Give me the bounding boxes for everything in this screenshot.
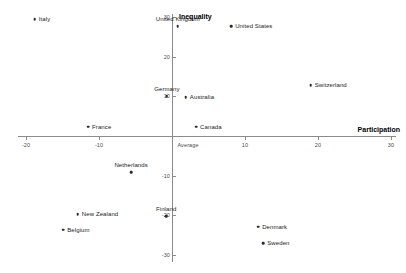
data-point-label: Australia bbox=[190, 94, 214, 100]
x-tick-mark bbox=[318, 136, 319, 140]
data-point-marker[interactable] bbox=[166, 95, 169, 98]
y-axis-line bbox=[172, 14, 173, 262]
data-point-marker[interactable] bbox=[185, 96, 188, 99]
data-point-marker[interactable] bbox=[230, 25, 233, 28]
x-tick-label: 20 bbox=[315, 142, 321, 148]
y-tick-label: -20 bbox=[154, 212, 170, 218]
data-point-label: Canada bbox=[200, 124, 222, 130]
x-tick-label: -10 bbox=[95, 142, 103, 148]
y-tick-mark bbox=[172, 57, 176, 58]
data-point-label: Italy bbox=[39, 16, 51, 22]
data-point-marker[interactable] bbox=[33, 18, 36, 21]
data-point-marker[interactable] bbox=[62, 229, 65, 232]
x-tick-label: -20 bbox=[22, 142, 30, 148]
data-point-label: United Kingdom bbox=[156, 16, 200, 22]
data-point-label: United States bbox=[235, 23, 272, 29]
y-tick-mark bbox=[172, 176, 176, 177]
data-point-label: New Zealand bbox=[82, 211, 118, 217]
data-point-marker[interactable] bbox=[165, 215, 168, 218]
x-tick-label: 30 bbox=[388, 142, 394, 148]
x-tick-label-average: Average bbox=[177, 142, 198, 148]
data-point-label: Germany bbox=[154, 86, 179, 92]
data-point-marker[interactable] bbox=[77, 213, 80, 216]
data-point-marker[interactable] bbox=[87, 126, 90, 129]
data-point-label: Sweden bbox=[267, 240, 289, 246]
data-point-marker[interactable] bbox=[262, 242, 265, 245]
data-point-marker[interactable] bbox=[130, 171, 133, 174]
data-point-marker[interactable] bbox=[177, 25, 180, 28]
y-tick-label: 20 bbox=[154, 54, 170, 60]
x-tick-mark bbox=[391, 136, 392, 140]
x-tick-mark bbox=[99, 136, 100, 140]
data-point-label: Denmark bbox=[262, 224, 287, 230]
data-point-label: France bbox=[92, 124, 111, 130]
y-tick-label: -30 bbox=[154, 252, 170, 258]
y-tick-mark bbox=[172, 215, 176, 216]
x-tick-mark bbox=[26, 136, 27, 140]
scatter-plot: Inequality Participation -20-10Average10… bbox=[0, 0, 406, 273]
data-point-marker[interactable] bbox=[195, 126, 198, 129]
x-axis-title: Participation bbox=[358, 126, 400, 133]
x-axis-line bbox=[18, 136, 396, 137]
data-point-label: Switzerland bbox=[315, 82, 347, 88]
y-tick-mark bbox=[172, 255, 176, 256]
x-tick-label: 10 bbox=[242, 142, 248, 148]
y-tick-mark bbox=[172, 96, 176, 97]
data-point-label: Belgium bbox=[67, 227, 89, 233]
y-tick-label: -10 bbox=[154, 173, 170, 179]
data-point-marker[interactable] bbox=[257, 225, 260, 228]
data-point-label: Finland bbox=[156, 206, 176, 212]
data-point-marker[interactable] bbox=[309, 84, 312, 87]
x-tick-mark bbox=[245, 136, 246, 140]
data-point-label: Netherlands bbox=[114, 162, 147, 168]
